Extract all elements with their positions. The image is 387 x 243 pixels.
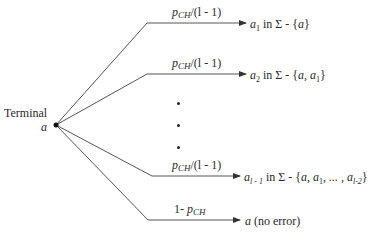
branch-4-probability: 1- pCH: [174, 203, 206, 217]
ellipsis-dot-3: [177, 146, 180, 149]
ellipsis-dot-1: [177, 102, 180, 105]
branch-1-probability: pCH/(l - 1): [172, 6, 221, 20]
branch-3-probability: pCH/(l - 1): [172, 159, 221, 173]
root-symbol: a: [41, 121, 47, 133]
root-node: [54, 123, 59, 128]
branch-4-outcome: a (no error): [245, 215, 300, 227]
branch-2-probability: pCH/(l - 1): [172, 57, 221, 71]
branch-2-outcome: a2 in Σ - {a, a1}: [250, 69, 326, 81]
branch-3-outcome: al - 1 in Σ - {a, a1, ... , al-2}: [244, 171, 368, 183]
branch-1-outcome: a1 in Σ - {a}: [250, 18, 310, 30]
root-label: Terminal: [4, 107, 47, 119]
ellipsis-dot-2: [177, 124, 180, 127]
branch-2-edge: [56, 74, 246, 125]
